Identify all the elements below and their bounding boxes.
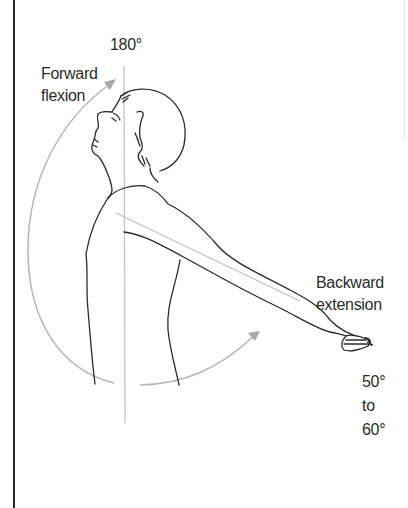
extension-range-line3: 60°: [362, 418, 385, 442]
backward-extension-label-line2: extension: [316, 294, 384, 316]
backward-extension-label: Backward extension: [316, 272, 384, 316]
figure-outline: [86, 89, 372, 385]
top-angle-label: 180°: [110, 34, 142, 56]
arm-axis-line: [116, 213, 300, 301]
backward-extension-label-line1: Backward: [316, 272, 384, 294]
head-outline: [121, 89, 185, 171]
torso-front-outline: [86, 198, 108, 384]
extension-range-line1: 50°: [362, 370, 385, 394]
forward-flexion-label-line2: flexion: [41, 85, 98, 107]
forward-flexion-label-line1: Forward: [41, 63, 98, 85]
forward-flexion-label: Forward flexion: [41, 63, 98, 107]
torso-back-outline: [168, 260, 180, 385]
backward-extension-arc: [140, 335, 255, 385]
extension-range-label: 50° to 60°: [362, 370, 385, 442]
forward-flexion-arc: [28, 84, 114, 383]
vertical-reference-line: [124, 66, 125, 423]
extension-range-line2: to: [362, 394, 385, 418]
forward-flexion-arrowhead-icon: [104, 79, 116, 90]
arm-lower-outline: [124, 232, 346, 336]
